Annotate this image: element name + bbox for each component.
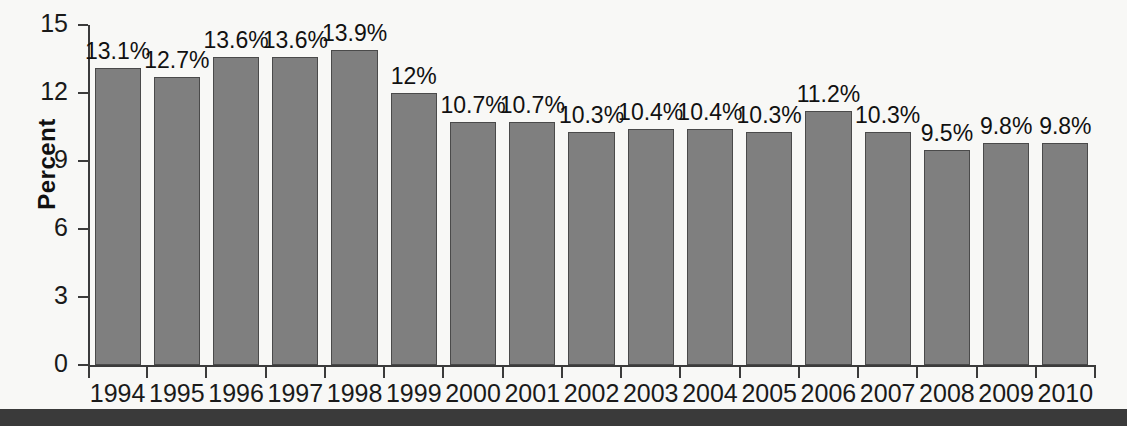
x-axis-tick-label: 1996: [206, 381, 265, 406]
x-axis-tick: [1094, 367, 1096, 378]
x-axis-tick: [857, 367, 859, 378]
y-axis-tick: [78, 24, 88, 26]
x-axis-tick: [205, 367, 207, 378]
bar: [746, 132, 792, 365]
bar: [628, 129, 674, 365]
bar-value-label: 12%: [372, 65, 455, 88]
y-axis-line: [88, 25, 90, 366]
x-axis-tick: [561, 367, 563, 378]
x-axis-tick: [976, 367, 978, 378]
x-axis-tick-label: 2001: [503, 381, 562, 406]
bar: [213, 57, 259, 365]
x-axis-tick: [916, 367, 918, 378]
x-axis-tick: [265, 367, 267, 378]
bar-value-label: 13.9%: [313, 22, 396, 45]
bar: [391, 93, 437, 365]
x-axis-tick-label: 2007: [858, 381, 917, 406]
x-axis-tick-label: 1998: [325, 381, 384, 406]
bar: [924, 150, 970, 365]
bar: [154, 77, 200, 365]
y-axis-tick-label: 3: [8, 283, 68, 308]
x-axis-tick-label: 2009: [977, 381, 1036, 406]
x-axis-tick: [442, 367, 444, 378]
y-axis-tick: [78, 364, 88, 366]
y-axis-tick: [78, 228, 88, 230]
x-axis-tick-label: 1999: [384, 381, 443, 406]
y-axis-tick: [78, 160, 88, 162]
bar: [805, 111, 851, 365]
bar: [272, 57, 318, 365]
x-axis-tick-label: 1997: [266, 381, 325, 406]
x-axis-tick-label: 2004: [680, 381, 739, 406]
y-axis-tick: [78, 92, 88, 94]
bar: [95, 68, 141, 365]
x-axis-tick-label: 1995: [147, 381, 206, 406]
x-axis-tick: [620, 367, 622, 378]
x-axis-tick: [88, 367, 90, 378]
y-axis-tick-label: 0: [8, 351, 68, 376]
bar: [1042, 143, 1088, 365]
x-axis-tick-label: 2005: [740, 381, 799, 406]
bar: [865, 132, 911, 365]
x-axis-tick: [383, 367, 385, 378]
x-axis-tick-label: 2008: [917, 381, 976, 406]
x-axis-line: [88, 365, 1096, 367]
x-axis-tick: [739, 367, 741, 378]
x-axis-tick: [146, 367, 148, 378]
bar: [983, 143, 1029, 365]
bar: [331, 50, 377, 365]
footer-band: [0, 409, 1127, 426]
y-axis-tick-label: 15: [8, 11, 68, 36]
x-axis-tick: [1035, 367, 1037, 378]
x-axis-tick-label: 1994: [88, 381, 147, 406]
y-axis-tick-label: 9: [8, 147, 68, 172]
y-axis-tick-label: 12: [8, 79, 68, 104]
bar: [509, 122, 555, 365]
y-axis-tick: [78, 296, 88, 298]
x-axis-tick-label: 2006: [799, 381, 858, 406]
x-axis-tick: [324, 367, 326, 378]
bar-value-label: 9.8%: [1024, 115, 1107, 138]
x-axis-tick: [798, 367, 800, 378]
bar: [687, 129, 733, 365]
y-axis-tick-label: 6: [8, 215, 68, 240]
x-axis-tick: [502, 367, 504, 378]
bar: [450, 122, 496, 365]
x-axis-tick-label: 2003: [621, 381, 680, 406]
x-axis-tick-label: 2010: [1036, 381, 1095, 406]
x-axis-tick-label: 2000: [443, 381, 502, 406]
x-axis-tick-label: 2002: [562, 381, 621, 406]
bar-chart-figure: Percent 03691215 19941995199619971998199…: [0, 0, 1127, 426]
bar: [568, 132, 614, 365]
x-axis-tick: [679, 367, 681, 378]
